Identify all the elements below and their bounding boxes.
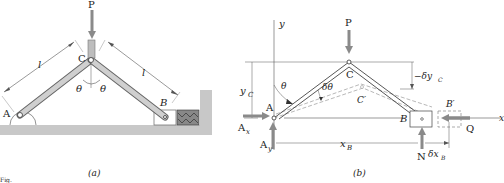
angle-arc — [83, 80, 100, 84]
figure-number: Fig. — [0, 176, 12, 183]
label-force-q: Q — [466, 123, 474, 134]
virtual-work-diagram: P l l θ θ C A B (a) Fig. y x — [0, 0, 504, 183]
label-force-p-b: P — [345, 17, 352, 28]
svg-text:C: C — [248, 91, 254, 99]
label-joint-a-a: A — [2, 108, 11, 119]
label-length-left: l — [38, 59, 41, 70]
bar-cb-b — [349, 62, 419, 114]
label-theta-left: θ — [76, 83, 82, 94]
label-delta-xb: δx — [428, 149, 439, 159]
label-reaction-ay: A — [259, 139, 268, 150]
svg-text:x: x — [246, 128, 250, 136]
label-xb: x — [340, 138, 346, 149]
label-theta-right: θ — [100, 83, 106, 94]
figure-b: y x y C −δy C P — [237, 17, 504, 178]
label-joint-a-b: A — [265, 102, 274, 113]
label-length-right: l — [142, 67, 145, 78]
caption-a: (a) — [88, 168, 101, 178]
wall-a — [200, 90, 212, 135]
label-force-n: N — [417, 151, 426, 162]
label-yc: y — [239, 85, 246, 96]
label-force-p-a: P — [88, 0, 95, 10]
svg-text:C: C — [438, 76, 443, 83]
label-axis-y: y — [278, 18, 285, 29]
displaced-bars — [274, 88, 420, 118]
label-joint-c-a: C — [78, 53, 86, 64]
label-joint-b-a: B — [159, 97, 167, 108]
label-joint-c-prime: C′ — [357, 95, 366, 105]
label-axis-x: x — [499, 113, 504, 123]
label-joint-b-prime: B′ — [445, 99, 455, 109]
figure-a: P l l θ θ C A B (a) Fig. — [0, 0, 212, 183]
svg-text:B: B — [346, 144, 352, 152]
label-reaction-ax: A — [237, 122, 246, 133]
plunger — [88, 40, 95, 58]
svg-text:B: B — [440, 154, 446, 161]
caption-b: (b) — [353, 168, 366, 178]
label-delta-yc: −δy — [414, 71, 433, 81]
label-joint-b-b: B — [399, 113, 407, 124]
label-joint-c-b: C — [346, 69, 354, 80]
label-delta-theta: δθ — [322, 82, 333, 92]
hatched-stop — [177, 110, 199, 125]
label-theta-b: θ — [281, 81, 287, 91]
ground-a — [0, 125, 212, 135]
